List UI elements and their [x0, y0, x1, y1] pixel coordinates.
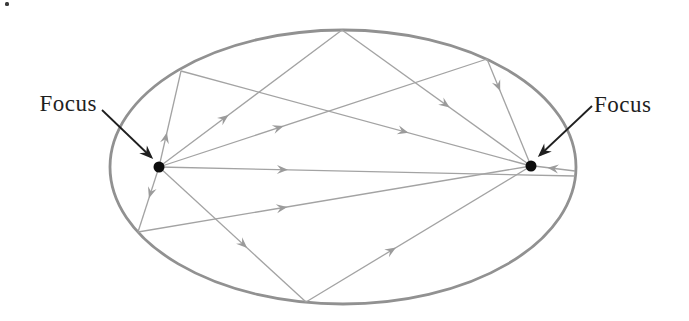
light-ray-F1-to-top-wall [159, 30, 342, 167]
ray-arrowhead-F1-to-upper-left-wall [160, 131, 171, 144]
light-ray-F1-to-bottom-wall [159, 167, 306, 302]
right-focus-pointer-line [540, 106, 592, 155]
ray-arrowhead-F1-to-upper-right-wall [272, 122, 285, 134]
ray-arrowhead-upper-left-wall-to-F2 [397, 126, 410, 138]
ray-arrowhead-top-wall-to-F2 [438, 97, 452, 111]
light-ray-lower-left-wall-to-F2 [138, 166, 531, 232]
left-focus-dot [154, 162, 165, 173]
light-ray-F1-to-upper-right-wall [159, 59, 487, 167]
ray-arrowhead-bottom-wall-to-F2 [384, 244, 398, 257]
light-ray-upper-left-wall-to-F2 [181, 71, 531, 166]
diagram-canvas: Focus Focus [0, 0, 689, 321]
light-ray-bottom-wall-to-F2 [306, 166, 531, 302]
light-ray-F1-to-right-vertex [159, 167, 575, 176]
corner-artifact [5, 2, 9, 6]
ellipse-foci-figure: Focus Focus [0, 0, 689, 321]
light-ray-F1-to-lower-left-wall [138, 167, 159, 232]
ray-arrowhead-lower-left-wall-to-F2 [276, 202, 288, 213]
focus-label-right: Focus [594, 92, 651, 117]
right-focus-dot [526, 161, 537, 172]
ray-arrowhead-upper-right-wall-to-F2 [492, 79, 505, 93]
ray-arrowhead-F1-to-lower-left-wall [145, 186, 157, 199]
focus-label-left: Focus [40, 91, 97, 116]
ray-arrowhead-F1-to-top-wall [217, 111, 231, 125]
